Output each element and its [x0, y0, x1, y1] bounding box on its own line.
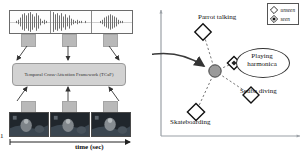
video-frame-strip: [9, 112, 131, 137]
class-label-playing-harmonica: Playing harmonica: [236, 52, 288, 68]
tcaf-framework-label: Temporal Cross-Attention Framework (TCaF…: [21, 72, 116, 78]
audio-waveform-segment-1: [10, 11, 51, 33]
video-thumbnail-icon: [92, 113, 130, 137]
audio-waveform-strip: [9, 10, 133, 34]
time-axis: [6, 138, 136, 150]
legend-label-unseen: unseen: [281, 7, 295, 13]
time-axis-label: time (sec): [75, 143, 104, 151]
query-embedding-node: [209, 65, 221, 77]
video-thumbnail-icon: [51, 113, 89, 137]
audio-waveform-segment-3: [92, 11, 132, 33]
waveform-icon: [92, 11, 132, 33]
video-frame-1: [9, 112, 49, 137]
video-frame-3: [91, 112, 131, 137]
waveform-icon: [51, 11, 91, 33]
left-panel-pipeline: Temporal Cross-Attention Framework (TCaF…: [0, 0, 152, 159]
legend-item-unseen: unseen: [270, 6, 295, 14]
hollow-diamond-icon: [270, 6, 278, 14]
marker-parrot-talking: [195, 24, 211, 40]
waveform-icon: [10, 11, 50, 33]
legend-item-seen: seen: [270, 15, 295, 23]
video-thumbnail-icon: [10, 113, 48, 137]
audio-waveform-segment-2: [51, 11, 92, 33]
time-axis-start-tick-label: 1: [0, 132, 4, 140]
class-label-parrot-talking: Parrot talking: [198, 14, 236, 22]
audio-to-framework-arrows: [9, 45, 131, 63]
plot-legend: unseen seen: [267, 3, 299, 25]
tcaf-framework-box: Temporal Cross-Attention Framework (TCaF…: [12, 63, 126, 86]
class-label-skateboarding: Skateboarding: [170, 119, 210, 127]
video-to-framework-arrows: [9, 84, 131, 102]
class-label-scuba-diving: Scuba diving: [240, 88, 277, 96]
filled-diamond-icon: [270, 15, 278, 23]
legend-label-seen: seen: [281, 16, 290, 22]
figure-root: Temporal Cross-Attention Framework (TCaF…: [0, 0, 307, 159]
video-frame-2: [50, 112, 90, 137]
right-panel-embedding-plot: Playing harmonica Parrot talking Scuba d…: [152, 0, 307, 159]
